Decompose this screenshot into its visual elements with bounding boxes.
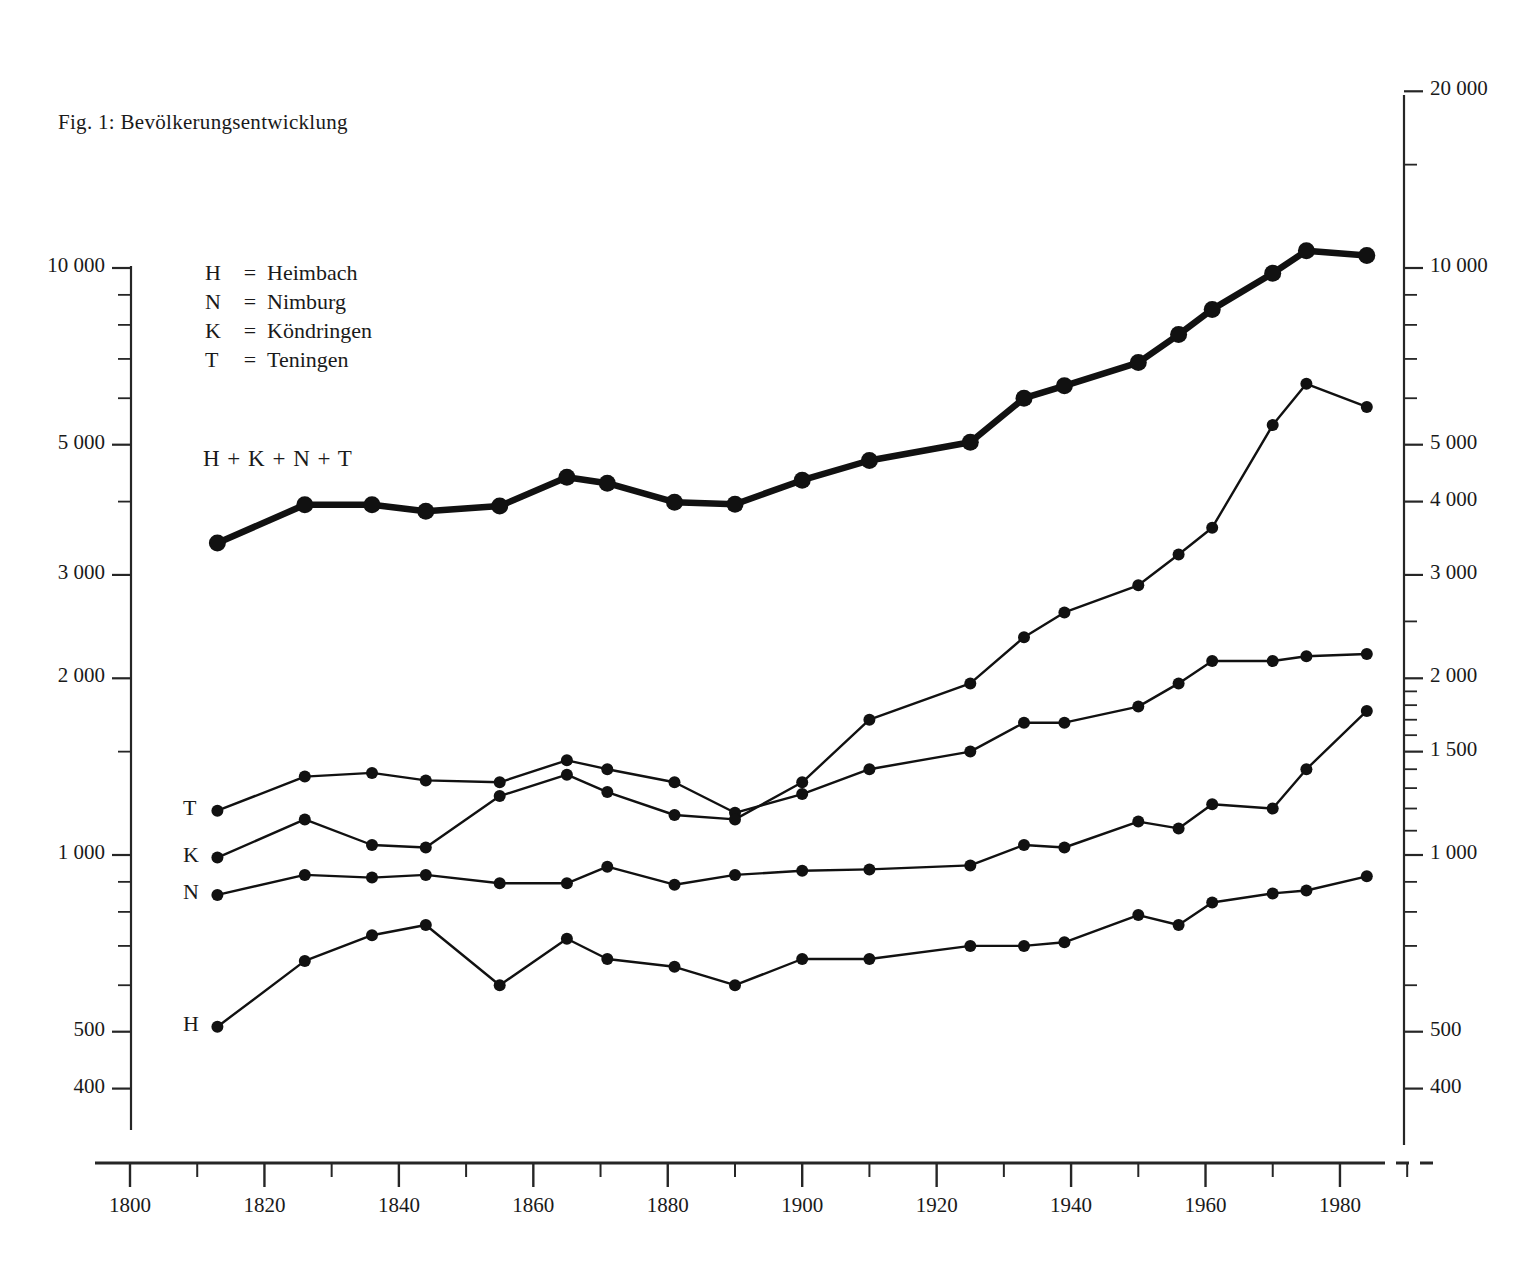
data-point xyxy=(1267,419,1279,431)
y-axis-tick-label-left: 2 000 xyxy=(0,663,105,688)
data-point xyxy=(299,869,311,881)
data-point xyxy=(420,842,432,854)
series-sum xyxy=(209,242,1375,551)
data-point xyxy=(420,919,432,931)
data-point xyxy=(561,933,573,945)
data-point xyxy=(417,503,434,520)
data-point xyxy=(1173,919,1185,931)
series-line xyxy=(217,251,1366,543)
data-point xyxy=(1267,655,1279,667)
series-line xyxy=(217,711,1366,895)
y-axis-tick-label-right: 20 000 xyxy=(1430,76,1488,101)
data-point xyxy=(494,776,506,788)
data-point xyxy=(1267,887,1279,899)
data-point xyxy=(669,879,681,891)
data-point xyxy=(420,869,432,881)
data-point xyxy=(366,767,378,779)
data-point xyxy=(1018,717,1030,729)
series-label-h: H xyxy=(183,1011,199,1037)
data-point xyxy=(727,496,744,513)
data-point xyxy=(364,496,381,513)
data-point xyxy=(561,877,573,889)
data-point xyxy=(299,813,311,825)
data-point xyxy=(863,763,875,775)
data-point xyxy=(1018,631,1030,643)
x-axis-tick-label: 1820 xyxy=(243,1193,285,1218)
series-label-t: T xyxy=(183,795,196,821)
data-point xyxy=(1058,606,1070,618)
series-T xyxy=(211,648,1372,819)
data-point xyxy=(299,955,311,967)
data-point xyxy=(1204,301,1221,318)
y-axis-tick-label-left: 500 xyxy=(0,1017,105,1042)
data-point xyxy=(796,953,808,965)
y-axis-tick-label-left: 400 xyxy=(0,1074,105,1099)
data-point xyxy=(366,872,378,884)
data-point xyxy=(366,929,378,941)
data-point xyxy=(494,877,506,889)
data-point xyxy=(1058,936,1070,948)
data-point xyxy=(1173,677,1185,689)
data-point xyxy=(729,813,741,825)
data-point xyxy=(1058,842,1070,854)
chart-figure: Fig. 1: Bevölkerungsentwicklung H = Heim… xyxy=(0,0,1517,1271)
data-point xyxy=(1206,798,1218,810)
data-point xyxy=(211,805,223,817)
data-point xyxy=(1170,326,1187,343)
data-point xyxy=(863,953,875,965)
y-axis-tick-label-left: 10 000 xyxy=(0,253,105,278)
data-point xyxy=(1018,839,1030,851)
y-axis-tick-label-left: 5 000 xyxy=(0,430,105,455)
series-line xyxy=(217,384,1366,858)
data-point xyxy=(861,452,878,469)
data-point xyxy=(491,498,508,515)
y-axis-tick-label-right: 1 500 xyxy=(1430,737,1477,762)
plot-canvas xyxy=(0,0,1517,1271)
data-point xyxy=(1361,705,1373,717)
data-point xyxy=(209,535,226,552)
data-point xyxy=(601,786,613,798)
data-point xyxy=(964,677,976,689)
y-axis-tick-label-right: 3 000 xyxy=(1430,560,1477,585)
data-point xyxy=(1173,822,1185,834)
data-point xyxy=(1173,549,1185,561)
series-label-k: K xyxy=(183,842,199,868)
series-line xyxy=(217,876,1366,1026)
data-point xyxy=(669,961,681,973)
series-N xyxy=(211,705,1372,901)
y-axis-tick-label-right: 5 000 xyxy=(1430,430,1477,455)
data-point xyxy=(366,839,378,851)
data-point xyxy=(599,475,616,492)
data-point xyxy=(601,861,613,873)
data-point xyxy=(1300,650,1312,662)
x-axis-tick-label: 1980 xyxy=(1319,1193,1361,1218)
data-point xyxy=(1298,242,1315,259)
x-axis-tick-label: 1900 xyxy=(781,1193,823,1218)
data-point xyxy=(962,434,979,451)
series-K xyxy=(211,378,1372,864)
data-point xyxy=(964,859,976,871)
y-axis-tick-label-right: 2 000 xyxy=(1430,663,1477,688)
data-point xyxy=(494,979,506,991)
data-point xyxy=(1058,717,1070,729)
data-point xyxy=(1056,377,1073,394)
data-point xyxy=(1267,803,1279,815)
data-point xyxy=(561,754,573,766)
data-point xyxy=(964,746,976,758)
x-axis-tick-label: 1800 xyxy=(109,1193,151,1218)
data-point xyxy=(1132,909,1144,921)
y-axis-tick-label-right: 10 000 xyxy=(1430,253,1488,278)
data-point xyxy=(299,771,311,783)
data-point xyxy=(1300,763,1312,775)
data-point xyxy=(211,889,223,901)
data-point xyxy=(601,763,613,775)
data-point xyxy=(420,774,432,786)
data-point xyxy=(1132,701,1144,713)
data-point xyxy=(863,714,875,726)
data-point xyxy=(669,776,681,788)
data-point xyxy=(211,852,223,864)
y-axis-tick-label-left: 1 000 xyxy=(0,840,105,865)
data-point xyxy=(669,809,681,821)
data-point xyxy=(1018,940,1030,952)
data-point xyxy=(211,1021,223,1033)
